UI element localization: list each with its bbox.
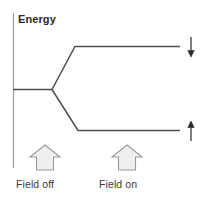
caption-field-on: Field on: [99, 178, 137, 190]
diagram-canvas: [0, 0, 206, 197]
caption-field-off: Field off: [16, 178, 54, 190]
block-up-arrow-field-off-icon: [30, 145, 60, 170]
block-up-arrow-field-on-icon: [112, 145, 142, 170]
energy-axis-label: Energy: [18, 13, 56, 25]
spin-up-arrow-icon: [188, 121, 194, 141]
upper-energy-level-line: [52, 47, 180, 90]
energy-level-splitting-diagram: Energy Field off Field on: [0, 0, 206, 197]
spin-down-arrow-icon: [188, 37, 194, 57]
lower-energy-level-line: [52, 90, 180, 131]
